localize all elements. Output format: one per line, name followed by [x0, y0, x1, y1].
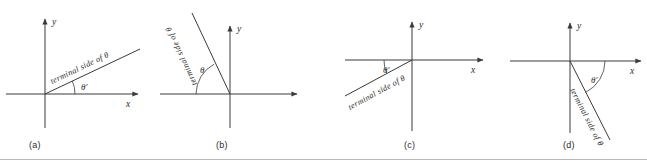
panel-b-angle-arc — [196, 64, 214, 94]
panel-d: x y θ′ terminal side of θ — [510, 21, 641, 148]
reference-angles-diagram: x y θ′ terminal side of θ y θ terminal s… — [0, 0, 647, 167]
panel-a-terminal-side-label: terminal side of θ — [49, 50, 110, 86]
panel-d-label: (d) — [563, 140, 575, 150]
panel-a-angle-label: θ′ — [81, 82, 88, 92]
panel-b-terminal-side-label: terminal side of θ — [164, 25, 199, 86]
panel-c-label: (c) — [404, 140, 415, 150]
panel-d-terminal-side-label: terminal side of θ — [568, 87, 605, 148]
panel-d-angle-label: θ′ — [591, 75, 598, 85]
figure-divider-rule — [0, 159, 647, 160]
panel-b-y-axis-label: y — [236, 24, 242, 34]
panel-a-terminal-side — [45, 49, 140, 94]
panel-d-x-axis-label: x — [629, 66, 635, 76]
panel-a-angle-arc — [72, 81, 75, 94]
panel-c-y-axis-label: y — [418, 20, 424, 30]
panel-c-x-axis-label: x — [470, 65, 476, 75]
panel-b-angle-label: θ — [200, 65, 205, 75]
panel-a-x-axis-label: x — [125, 99, 131, 109]
panel-c-angle-label: θ′ — [383, 65, 390, 75]
panel-c: x y θ′ terminal side of θ — [345, 20, 483, 131]
panel-a: x y θ′ terminal side of θ — [6, 17, 140, 128]
figure-container: x y θ′ terminal side of θ y θ terminal s… — [0, 0, 647, 167]
panel-b-label: (b) — [216, 140, 228, 150]
panel-b: y θ terminal side of θ — [160, 13, 297, 128]
panel-a-label: (a) — [29, 140, 41, 150]
panel-a-y-axis-label: y — [51, 17, 57, 27]
panel-d-y-axis-label: y — [576, 21, 582, 31]
